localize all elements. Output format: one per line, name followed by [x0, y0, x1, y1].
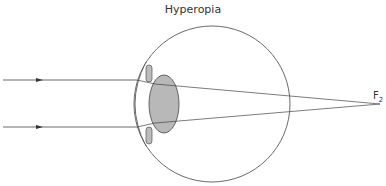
cornea [135, 62, 146, 146]
iris-upper [146, 65, 152, 82]
arrow-icon [36, 125, 43, 129]
focal-point-label: F2 [373, 90, 383, 104]
focal-label-subscript: 2 [379, 96, 383, 104]
hyperopia-diagram [0, 0, 386, 186]
iris-lower [146, 127, 152, 144]
arrow-icon [36, 78, 43, 82]
